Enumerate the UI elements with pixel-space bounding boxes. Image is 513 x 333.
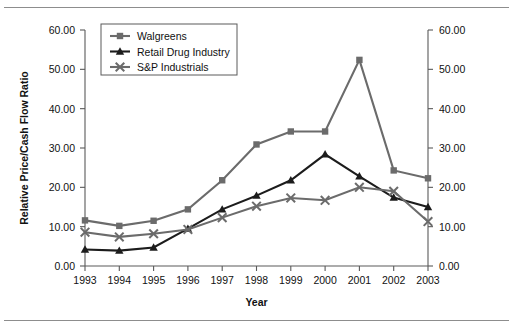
y-axis-left-tick-label: 50.00 bbox=[49, 63, 75, 75]
legend-item-label: Retail Drug Industry bbox=[137, 46, 231, 58]
data-point-triangle-marker bbox=[321, 150, 329, 157]
data-point-square-marker bbox=[116, 223, 122, 229]
x-axis-tick-label: 1998 bbox=[245, 274, 269, 286]
y-axis-right-tick-label: 0.00 bbox=[439, 260, 460, 272]
data-point-square-marker bbox=[288, 128, 294, 134]
y-axis-left-tick-label: 10.00 bbox=[49, 221, 75, 233]
y-axis-right-tick-labels: 0.0010.0020.0030.0040.0050.0060.00 bbox=[439, 24, 465, 272]
y-axis-left-tick-label: 20.00 bbox=[49, 181, 75, 193]
legend-item-label: Walgreens bbox=[137, 30, 187, 42]
chart-plot-area: 0.0010.0020.0030.0040.0050.0060.00 0.001… bbox=[0, 0, 513, 333]
y-axis-right-ticks bbox=[428, 30, 433, 266]
data-point-square-marker bbox=[150, 218, 156, 224]
x-axis-tick-label: 1995 bbox=[142, 274, 166, 286]
x-axis-tick-label: 2003 bbox=[416, 274, 440, 286]
y-axis-left-tick-label: 0.00 bbox=[55, 260, 76, 272]
chart-figure: 0.0010.0020.0030.0040.0050.0060.00 0.001… bbox=[0, 0, 513, 333]
data-point-square-marker bbox=[219, 177, 225, 183]
y-axis-title: Relative Price/Cash Flow Ratio bbox=[18, 71, 30, 224]
x-axis-tick-label: 1996 bbox=[176, 274, 200, 286]
data-point-square-marker bbox=[117, 33, 123, 39]
data-point-square-marker bbox=[322, 128, 328, 134]
y-axis-right-tick-label: 60.00 bbox=[439, 24, 465, 36]
x-axis-tick-label: 2001 bbox=[348, 274, 372, 286]
y-axis-right-tick-label: 30.00 bbox=[439, 142, 465, 154]
y-axis-right-tick-label: 20.00 bbox=[439, 181, 465, 193]
x-axis-tick-label: 2000 bbox=[313, 274, 337, 286]
x-axis-tick-label: 1994 bbox=[108, 274, 132, 286]
series-walgreens bbox=[82, 57, 431, 229]
y-axis-left-tick-labels: 0.0010.0020.0030.0040.0050.0060.00 bbox=[49, 24, 75, 272]
y-axis-right-tick-label: 10.00 bbox=[439, 221, 465, 233]
x-axis-title: Year bbox=[245, 296, 267, 308]
data-point-square-marker bbox=[425, 175, 431, 181]
line-chart: 0.0010.0020.0030.0040.0050.0060.00 0.001… bbox=[0, 0, 513, 333]
data-point-square-marker bbox=[82, 217, 88, 223]
y-axis-right-tick-label: 40.00 bbox=[439, 103, 465, 115]
x-axis-tick-label: 2002 bbox=[382, 274, 406, 286]
data-point-square-marker bbox=[253, 141, 259, 147]
x-axis-tick-label: 1997 bbox=[211, 274, 235, 286]
series-retail-drug-industry bbox=[81, 150, 432, 254]
data-point-square-marker bbox=[391, 167, 397, 173]
x-axis-ticks bbox=[85, 266, 428, 271]
chart-legend: WalgreensRetail Drug IndustryS&P Industr… bbox=[101, 24, 237, 75]
series-layer bbox=[81, 57, 433, 254]
y-axis-right-tick-label: 50.00 bbox=[439, 63, 465, 75]
y-axis-left-tick-label: 30.00 bbox=[49, 142, 75, 154]
data-point-square-marker bbox=[356, 57, 362, 63]
x-axis-tick-label: 1999 bbox=[279, 274, 303, 286]
x-axis-tick-label: 1993 bbox=[73, 274, 97, 286]
x-axis-tick-labels: 1993199419951996199719981999200020012002… bbox=[73, 274, 440, 286]
data-point-square-marker bbox=[185, 206, 191, 212]
y-axis-left-tick-label: 40.00 bbox=[49, 103, 75, 115]
y-axis-left-tick-label: 60.00 bbox=[49, 24, 75, 36]
legend-item-label: S&P Industrials bbox=[137, 61, 209, 73]
